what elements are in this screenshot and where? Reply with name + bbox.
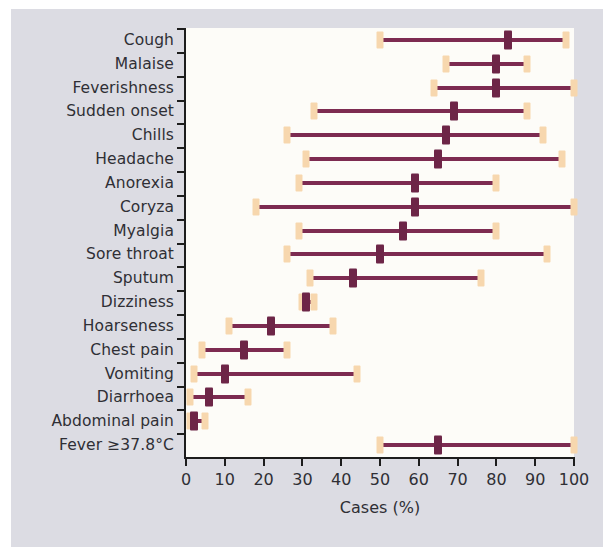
- y-axis-tick: [177, 338, 186, 340]
- confidence-interval-line: [299, 181, 497, 185]
- confidence-interval-line: [287, 252, 547, 256]
- x-axis-tick-label: 90: [525, 470, 545, 489]
- y-axis-tick: [177, 386, 186, 388]
- figure-panel: CoughMalaiseFeverishnessSudden onsetChil…: [11, 9, 603, 547]
- confidence-interval-upper-cap: [524, 55, 531, 72]
- y-axis-tick: [177, 100, 186, 102]
- confidence-interval-upper-cap: [543, 246, 550, 263]
- point-estimate-marker: [492, 78, 500, 97]
- confidence-interval-lower-cap: [186, 389, 193, 406]
- data-row: Diarrhoea: [186, 386, 574, 410]
- category-label: Diarrhoea: [97, 388, 174, 406]
- category-label: Headache: [95, 150, 174, 168]
- confidence-interval-line: [314, 109, 527, 113]
- x-axis-title: Cases (%): [186, 498, 574, 517]
- confidence-interval-lower-cap: [303, 151, 310, 168]
- y-axis-tick: [177, 433, 186, 435]
- x-axis-tick: [379, 457, 381, 466]
- confidence-interval-upper-cap: [571, 198, 578, 215]
- x-axis-tick-label: 20: [253, 470, 273, 489]
- data-row: Fever ≥37.8°C: [186, 433, 574, 457]
- category-label: Coryza: [120, 198, 174, 216]
- y-axis-tick: [177, 362, 186, 364]
- category-label: Sputum: [113, 269, 174, 287]
- point-estimate-marker: [492, 54, 500, 73]
- data-row: Feverishness: [186, 76, 574, 100]
- point-estimate-marker: [411, 173, 419, 192]
- confidence-interval-line: [287, 133, 543, 137]
- confidence-interval-upper-cap: [311, 294, 318, 311]
- category-label: Vomiting: [105, 365, 174, 383]
- confidence-interval-upper-cap: [202, 413, 209, 430]
- data-row: Malaise: [186, 52, 574, 76]
- confidence-interval-lower-cap: [377, 437, 384, 454]
- y-axis-tick: [177, 123, 186, 125]
- y-axis-tick: [177, 266, 186, 268]
- x-axis-tick-label: 80: [486, 470, 506, 489]
- data-row: Sudden onset: [186, 100, 574, 124]
- data-row: Dizziness: [186, 290, 574, 314]
- y-axis-tick: [177, 76, 186, 78]
- confidence-interval-upper-cap: [493, 222, 500, 239]
- y-axis-tick: [177, 219, 186, 221]
- confidence-interval-upper-cap: [571, 437, 578, 454]
- x-axis-tick: [418, 457, 420, 466]
- y-axis-tick: [177, 409, 186, 411]
- x-axis-tick: [263, 457, 265, 466]
- plot-area: CoughMalaiseFeverishnessSudden onsetChil…: [184, 28, 574, 459]
- data-row: Anorexia: [186, 171, 574, 195]
- y-axis-tick: [177, 52, 186, 54]
- category-label: Cough: [124, 31, 174, 49]
- confidence-interval-upper-cap: [524, 103, 531, 120]
- x-axis-tick: [185, 457, 187, 466]
- x-axis-tick-label: 40: [331, 470, 351, 489]
- confidence-interval-line: [446, 62, 527, 66]
- x-axis-tick: [573, 457, 575, 466]
- confidence-interval-lower-cap: [283, 246, 290, 263]
- data-row: Cough: [186, 28, 574, 52]
- x-axis-tick-label: 50: [370, 470, 390, 489]
- category-label: Anorexia: [105, 174, 174, 192]
- point-estimate-marker: [190, 412, 198, 431]
- point-estimate-marker: [349, 269, 357, 288]
- x-axis-tick-label: 70: [447, 470, 467, 489]
- y-axis-tick: [177, 243, 186, 245]
- x-axis-tick-label: 30: [292, 470, 312, 489]
- y-axis-tick: [177, 28, 186, 30]
- category-label: Chest pain: [90, 341, 174, 359]
- confidence-interval-lower-cap: [283, 127, 290, 144]
- point-estimate-marker: [205, 388, 213, 407]
- point-estimate-marker: [399, 221, 407, 240]
- y-axis-tick: [177, 195, 186, 197]
- confidence-interval-upper-cap: [539, 127, 546, 144]
- x-axis-tick: [224, 457, 226, 466]
- confidence-interval-line: [194, 372, 357, 376]
- confidence-interval-lower-cap: [307, 270, 314, 287]
- confidence-interval-upper-cap: [559, 151, 566, 168]
- point-estimate-marker: [434, 150, 442, 169]
- confidence-interval-upper-cap: [245, 389, 252, 406]
- category-label: Myalgia: [113, 222, 174, 240]
- category-label: Feverishness: [72, 79, 174, 97]
- category-label: Dizziness: [101, 293, 174, 311]
- confidence-interval-line: [229, 324, 334, 328]
- data-row: Coryza: [186, 195, 574, 219]
- confidence-interval-lower-cap: [311, 103, 318, 120]
- point-estimate-marker: [267, 316, 275, 335]
- data-row: Sputum: [186, 266, 574, 290]
- x-axis-tick-label: 0: [181, 470, 191, 489]
- data-row: Sore throat: [186, 243, 574, 267]
- confidence-interval-lower-cap: [198, 341, 205, 358]
- y-axis-tick: [177, 171, 186, 173]
- y-axis-tick: [177, 314, 186, 316]
- category-label: Chills: [132, 126, 174, 144]
- confidence-interval-lower-cap: [442, 55, 449, 72]
- confidence-interval-upper-cap: [330, 317, 337, 334]
- confidence-interval-upper-cap: [353, 365, 360, 382]
- confidence-interval-line: [380, 443, 574, 447]
- data-row: Headache: [186, 147, 574, 171]
- data-row: Chest pain: [186, 338, 574, 362]
- confidence-interval-upper-cap: [477, 270, 484, 287]
- confidence-interval-upper-cap: [563, 31, 570, 48]
- confidence-interval-upper-cap: [283, 341, 290, 358]
